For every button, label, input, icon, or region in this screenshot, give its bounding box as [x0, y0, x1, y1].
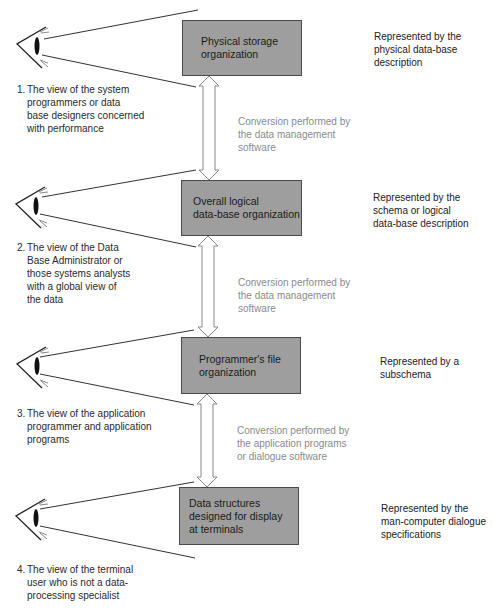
text-line: software — [238, 141, 350, 154]
view-caption-4: 4. The view of the terminal user who is … — [27, 563, 133, 602]
view-number: 2. — [17, 241, 25, 254]
eye-icon-1 — [17, 27, 49, 68]
box-line: Physical storage — [201, 35, 301, 48]
view-number: 4. — [17, 563, 25, 576]
text-line: the application programs — [237, 437, 349, 450]
text-line: physical data-base — [374, 43, 461, 56]
represented-label-1: Represented by the physical data-base de… — [374, 30, 461, 69]
box-line: Data structures — [189, 497, 298, 510]
text-line: subschema — [380, 368, 459, 381]
box-programmers-file: Programmer's file organization — [181, 337, 301, 394]
box-line: designed for display — [189, 510, 298, 523]
conversion-label-1: Conversion performed by the data managem… — [238, 115, 350, 154]
text-line: The view of the system — [27, 83, 144, 96]
text-line: The view of the application — [27, 407, 152, 420]
text-line: Conversion performed by — [238, 115, 350, 128]
text-line: The view of the Data — [27, 241, 130, 254]
represented-label-4: Represented by the man-computer dialogue… — [381, 502, 486, 541]
conversion-label-2: Conversion performed by the data managem… — [238, 276, 350, 315]
text-line: Represented by a — [380, 355, 459, 368]
view-number: 1. — [17, 83, 25, 96]
eye-icon-4 — [16, 499, 48, 540]
text-line: Represented by the — [381, 502, 486, 515]
text-line: with performance — [27, 122, 144, 135]
view-number: 3. — [17, 407, 25, 420]
text-line: schema or logical — [373, 204, 469, 217]
text-line: the data — [27, 293, 130, 306]
text-line: programmers or data — [27, 96, 144, 109]
view-caption-2: 2. The view of the Data Base Administrat… — [27, 241, 130, 306]
double-arrow-icon-2 — [198, 236, 218, 337]
double-arrow-icon-3 — [197, 394, 217, 487]
text-line: software — [238, 302, 350, 315]
view-caption-3: 3. The view of the application programme… — [27, 407, 152, 446]
double-arrow-icon-1 — [199, 76, 219, 180]
text-line: processing specialist — [27, 589, 133, 602]
text-line: or dialogue software — [237, 450, 349, 463]
text-line: those systems analysts — [27, 267, 130, 280]
text-line: data-base description — [373, 217, 469, 230]
text-line: the data management — [238, 289, 350, 302]
text-line: specifications — [381, 528, 486, 541]
box-line: data-base organization — [193, 208, 301, 221]
box-line: at terminals — [189, 523, 298, 536]
text-line: Conversion performed by — [238, 276, 350, 289]
text-line: description — [374, 56, 461, 69]
text-line: base designers concerned — [27, 109, 144, 122]
eye-icon-3 — [17, 347, 49, 388]
box-line: organization — [199, 366, 300, 379]
text-line: The view of the terminal — [27, 563, 133, 576]
text-line: programmer and application — [27, 420, 152, 433]
text-line: user who is not a data- — [27, 576, 133, 589]
text-line: Conversion performed by — [237, 424, 349, 437]
text-line: Represented by the — [374, 30, 461, 43]
eye-icon-2 — [16, 187, 48, 228]
text-line: with a global view of — [27, 280, 130, 293]
box-overall-logical: Overall logical data-base organization — [181, 180, 302, 236]
box-line: Programmer's file — [199, 353, 300, 366]
text-line: the data management — [238, 128, 350, 141]
box-physical-storage: Physical storage organization — [182, 20, 302, 76]
text-line: man-computer dialogue — [381, 515, 486, 528]
conversion-label-3: Conversion performed by the application … — [237, 424, 349, 463]
text-line: Represented by the — [373, 191, 469, 204]
box-line: Overall logical — [193, 195, 301, 208]
box-line: organization — [201, 48, 301, 61]
text-line: Base Administrator or — [27, 254, 130, 267]
text-line: programs — [27, 433, 152, 446]
represented-label-3: Represented by a subschema — [380, 355, 459, 381]
represented-label-2: Represented by the schema or logical dat… — [373, 191, 469, 230]
view-caption-1: 1. The view of the system programmers or… — [27, 83, 144, 135]
box-data-structures: Data structures designed for display at … — [179, 487, 299, 545]
